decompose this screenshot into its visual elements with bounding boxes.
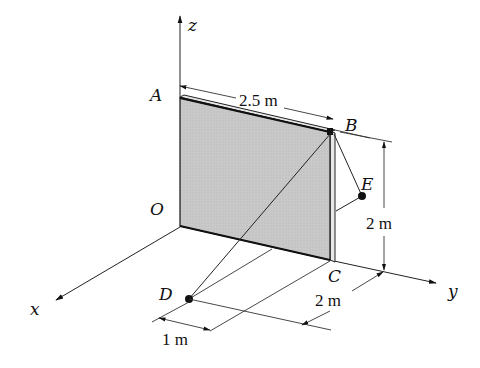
dimension-2m-vertical xyxy=(340,132,392,270)
cable-dc-projection xyxy=(189,249,272,299)
plate xyxy=(180,95,335,262)
point-b-label: B xyxy=(344,115,358,135)
point-a-label: A xyxy=(148,85,162,105)
cable-be xyxy=(334,134,362,196)
cable-e-plate xyxy=(336,196,362,211)
point-d-label: D xyxy=(158,284,173,304)
point-o-label: O xyxy=(150,199,164,219)
dimension-2m-y xyxy=(189,272,383,330)
diagram-canvas: z x y A B C D E O 2.5 m 2 m 2 m 1 m xyxy=(0,0,480,368)
dim-label-2m-vertical: 2 m xyxy=(366,214,392,233)
z-axis-label: z xyxy=(187,15,198,35)
y-axis-label: y xyxy=(447,281,458,301)
dim-label-2m-y: 2 m xyxy=(315,291,341,310)
point-c-label: C xyxy=(328,266,341,286)
point-e-label: E xyxy=(360,174,374,194)
y-axis xyxy=(334,261,436,283)
dim-label-2-5m: 2.5 m xyxy=(239,91,278,110)
dim-label-1m: 1 m xyxy=(162,330,188,349)
dimension-1m xyxy=(152,261,330,331)
x-axis-label: x xyxy=(30,299,40,319)
